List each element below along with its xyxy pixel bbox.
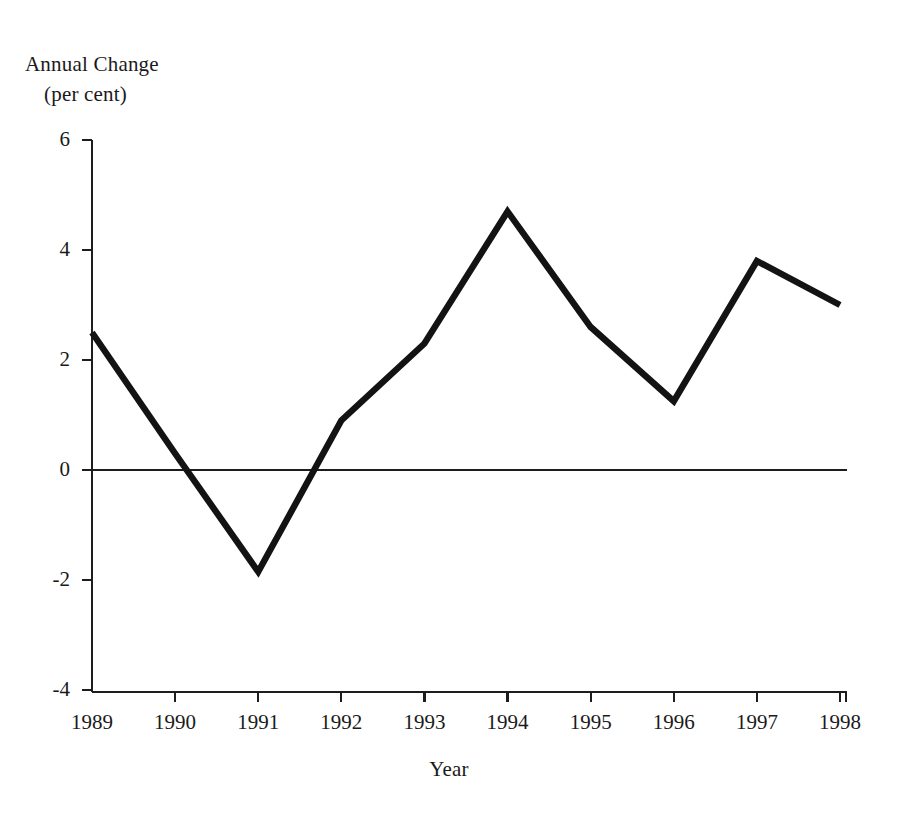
axes-group [92,140,847,702]
series-annual-change [92,212,840,572]
x-tick-label: 1994 [466,712,550,733]
y-tick-label: -4 [24,679,70,700]
x-tick-label: 1995 [549,712,633,733]
x-tick-marks [175,692,840,702]
y-tick-label: 4 [24,239,70,260]
plot-area [0,0,898,831]
x-tick-label: 1992 [299,712,383,733]
line-chart: Annual Change (per cent) 6420-2-4 198919… [0,0,898,831]
x-tick-label: 1993 [382,712,466,733]
x-axis-title: Year [0,757,898,782]
x-tick-label: 1996 [632,712,716,733]
y-tick-label: 0 [24,459,70,480]
x-tick-label: 1989 [50,712,134,733]
y-tick-label: -2 [24,569,70,590]
y-tick-label: 2 [24,349,70,370]
x-tick-label: 1997 [715,712,799,733]
x-tick-label: 1998 [798,712,882,733]
y-tick-label: 6 [24,129,70,150]
y-tick-marks [82,140,92,690]
x-tick-label: 1991 [216,712,300,733]
x-tick-label: 1990 [133,712,217,733]
